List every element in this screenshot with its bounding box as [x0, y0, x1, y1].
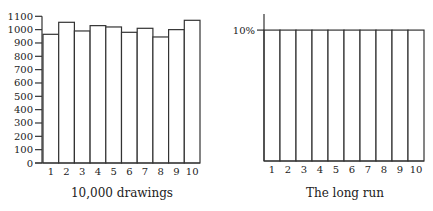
x-tick-label: 1	[269, 164, 275, 175]
bar-3	[296, 30, 312, 161]
y-tick-label: 300	[14, 117, 33, 128]
bar-1	[264, 30, 280, 161]
y-tick-label: 900	[14, 37, 33, 48]
bar-9	[392, 30, 408, 161]
bar-10	[408, 30, 424, 161]
bar-5	[328, 30, 344, 161]
x-tick-label: 8	[158, 166, 164, 177]
x-tick-label: 7	[365, 164, 371, 175]
y-tick-label: 200	[14, 131, 33, 142]
bar-6	[344, 30, 360, 161]
y-tick-label: 1100	[8, 11, 33, 22]
bar-7	[360, 30, 376, 161]
x-tick-label: 1	[48, 166, 54, 177]
y-tick-label: 400	[14, 104, 33, 115]
bar-7	[137, 28, 153, 163]
bar-4	[312, 30, 328, 161]
bar-1	[43, 34, 59, 163]
bar-8	[376, 30, 392, 161]
x-tick-label: 4	[95, 166, 101, 177]
left-histogram-10000-drawings: 1234567891001002003004005006007008009001…	[8, 11, 200, 200]
y-tick-label: 1000	[8, 24, 33, 35]
x-tick-label: 2	[63, 166, 69, 177]
y-tick-label: 800	[14, 51, 33, 62]
bar-8	[153, 37, 169, 163]
right-histogram-long-run: 1234567891010%The long run	[233, 14, 424, 200]
x-tick-label: 2	[285, 164, 291, 175]
bar-4	[90, 26, 106, 163]
x-tick-label: 5	[333, 164, 339, 175]
x-tick-label: 3	[79, 166, 85, 177]
x-tick-label: 9	[397, 164, 403, 175]
x-tick-label: 3	[301, 164, 307, 175]
bar-10	[184, 20, 200, 163]
y-tick-label: 10%	[233, 25, 255, 36]
chart-caption: 10,000 drawings	[71, 186, 173, 200]
x-tick-label: 10	[410, 164, 423, 175]
y-tick-label: 0	[27, 158, 33, 169]
chart-caption: The long run	[306, 186, 384, 200]
x-tick-label: 6	[126, 166, 132, 177]
bar-2	[59, 22, 75, 163]
bar-3	[74, 31, 90, 163]
bar-5	[106, 27, 122, 163]
bar-9	[169, 30, 185, 163]
y-tick-label: 100	[14, 144, 33, 155]
x-tick-label: 5	[110, 166, 116, 177]
x-tick-label: 8	[381, 164, 387, 175]
x-tick-label: 10	[186, 166, 199, 177]
bar-6	[122, 32, 138, 163]
histogram-figure: 1234567891001002003004005006007008009001…	[0, 0, 433, 211]
x-tick-label: 7	[142, 166, 148, 177]
y-tick-label: 500	[14, 91, 33, 102]
x-tick-label: 4	[317, 164, 323, 175]
y-tick-label: 600	[14, 77, 33, 88]
bar-2	[280, 30, 296, 161]
x-tick-label: 9	[173, 166, 179, 177]
x-tick-label: 6	[349, 164, 355, 175]
y-tick-label: 700	[14, 64, 33, 75]
